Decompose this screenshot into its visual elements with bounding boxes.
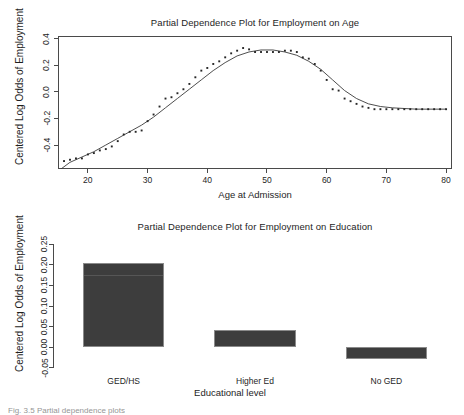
data-point (188, 83, 190, 85)
data-point (93, 152, 95, 154)
data-point (153, 114, 155, 116)
y-tick-mark (49, 244, 53, 245)
bar (83, 263, 164, 348)
data-point (421, 108, 423, 110)
figure-caption-fragment: Fig. 3.5 Partial dependence plots (8, 406, 188, 415)
y-tick-label: 0.2 (41, 59, 51, 71)
bar (214, 330, 295, 347)
y-tick-label: 0.4 (41, 33, 51, 45)
category-label: GED/HS (64, 376, 184, 386)
data-point (87, 153, 89, 155)
data-point (218, 60, 220, 62)
data-point (135, 131, 137, 133)
data-point (224, 56, 226, 58)
y-tick-mark (49, 326, 53, 327)
data-point (194, 76, 196, 78)
data-point (278, 51, 280, 53)
y-tick-label: -0.05 (39, 358, 49, 377)
data-point (165, 98, 167, 100)
data-point (206, 67, 208, 69)
y-tick-mark (54, 118, 58, 119)
data-point (362, 106, 364, 108)
y-tick-mark (49, 264, 53, 265)
data-point (260, 51, 262, 53)
y-tick-mark (54, 38, 58, 39)
x-tick-mark (207, 169, 208, 173)
data-point (176, 92, 178, 94)
x-tick-label: 30 (134, 175, 162, 185)
y-tick-mark (54, 91, 58, 92)
chart-title-age: Partial Dependence Plot for Employment o… (58, 17, 452, 28)
data-point (350, 100, 352, 102)
x-tick-mark (446, 169, 447, 173)
y-tick-label: 0.05 (39, 318, 49, 335)
data-point (439, 108, 441, 110)
x-tick-label: 70 (372, 175, 400, 185)
plot-canvas-age (58, 36, 452, 169)
smoothed-fit-line (61, 50, 446, 169)
x-tick-mark (266, 169, 267, 173)
category-label: Higher Ed (195, 376, 315, 386)
x-tick-mark (386, 169, 387, 173)
y-axis-line (53, 244, 54, 368)
y-tick-label: -0.4 (41, 138, 51, 153)
y-axis-label-age: Centered Log Odds of Employment (14, 8, 25, 165)
x-tick-label: 50 (253, 175, 281, 185)
y-tick-mark (49, 306, 53, 307)
y-tick-label: 0.15 (39, 277, 49, 294)
figure-partial-dependence-plots: Partial Dependence Plot for Employment o… (0, 0, 464, 415)
x-axis-label-age: Age at Admission (58, 189, 452, 200)
y-tick-mark (54, 65, 58, 66)
data-point (314, 63, 316, 65)
data-point (344, 98, 346, 100)
data-point (296, 51, 298, 53)
data-point (391, 108, 393, 110)
y-tick-label: 0.10 (39, 298, 49, 315)
bar-highlight-streak (84, 275, 163, 276)
data-point (415, 108, 417, 110)
data-point-group (63, 47, 447, 162)
data-point (141, 130, 143, 132)
data-point (302, 56, 304, 58)
x-tick-mark (147, 169, 148, 173)
data-point (117, 140, 119, 142)
data-point (212, 63, 214, 65)
data-point (200, 70, 202, 72)
data-point (105, 148, 107, 150)
data-point (368, 107, 370, 109)
y-tick-label: 0.25 (39, 236, 49, 253)
data-point (111, 145, 113, 147)
chart-title-education: Partial Dependence Plot for Employment o… (58, 221, 452, 232)
data-point (248, 48, 250, 50)
bar (346, 347, 427, 359)
data-point (171, 96, 173, 98)
data-point (147, 120, 149, 122)
data-point (272, 51, 274, 53)
data-point (373, 108, 375, 110)
data-point (254, 51, 256, 53)
category-label: No GED (326, 376, 446, 386)
data-point (308, 58, 310, 60)
data-point (75, 157, 77, 159)
x-tick-label: 40 (193, 175, 221, 185)
data-point (290, 50, 292, 52)
y-tick-mark (54, 145, 58, 146)
y-tick-mark (49, 285, 53, 286)
data-point (63, 160, 65, 162)
data-point (123, 134, 125, 136)
data-point (409, 108, 411, 110)
data-point (326, 79, 328, 81)
data-point (230, 52, 232, 54)
data-point (236, 50, 238, 52)
data-point (69, 159, 71, 161)
data-point (397, 108, 399, 110)
data-point (433, 108, 435, 110)
data-point (266, 51, 268, 53)
y-tick-label: 0.20 (39, 256, 49, 273)
data-point (81, 157, 83, 159)
data-point (242, 47, 244, 49)
x-axis-label-education: Educational level (150, 387, 310, 398)
data-point (99, 149, 101, 151)
y-tick-label: -0.2 (41, 111, 51, 126)
plot-canvas-education (58, 240, 452, 372)
